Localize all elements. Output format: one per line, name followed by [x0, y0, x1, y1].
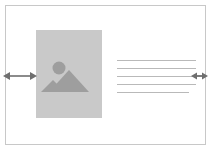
image-placeholder[interactable]: Image placeholder	[36, 30, 102, 118]
left-resize-arrow[interactable]	[3, 69, 37, 83]
diagram-canvas: Image placeholder Text lines Responsive …	[0, 0, 213, 152]
diagram-title: Responsive image and text block resize d…	[0, 0, 1, 1]
text-line-block: Text lines	[117, 60, 197, 93]
mountain-photo-icon	[36, 30, 102, 118]
text-line	[117, 92, 189, 93]
text-line	[117, 60, 196, 61]
text-line	[117, 68, 196, 69]
text-line	[117, 84, 196, 85]
right-resize-arrow[interactable]	[191, 70, 208, 82]
text-line	[117, 76, 196, 77]
